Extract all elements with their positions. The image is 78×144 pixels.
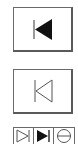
skip-to-end-filled-button[interactable] bbox=[34, 128, 54, 144]
skip-to-start-outline-icon bbox=[14, 70, 71, 112]
skip-to-start-outline-button[interactable] bbox=[13, 69, 73, 114]
skip-to-end-outline-button[interactable] bbox=[14, 128, 34, 144]
playback-toolbar bbox=[13, 127, 75, 144]
circle-minus-icon bbox=[54, 128, 74, 144]
media-controls-panel bbox=[0, 0, 78, 144]
stop-button[interactable] bbox=[54, 128, 74, 144]
skip-to-start-filled-icon bbox=[14, 8, 71, 50]
skip-to-end-filled-icon bbox=[34, 128, 53, 144]
skip-to-start-button[interactable] bbox=[13, 7, 73, 52]
skip-to-end-outline-icon bbox=[14, 128, 33, 144]
